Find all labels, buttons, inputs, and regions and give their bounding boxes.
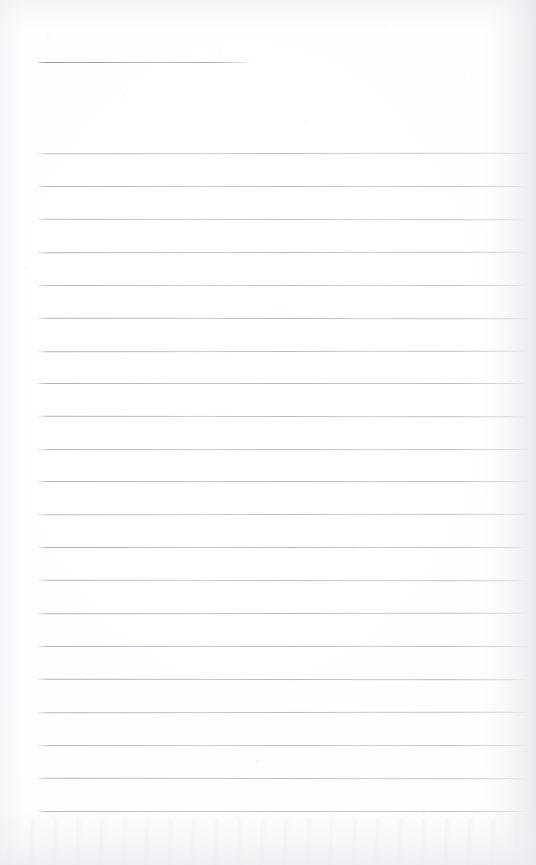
ruled-line — [37, 580, 528, 581]
ruled-line — [37, 285, 528, 286]
ruled-line — [37, 219, 528, 220]
ruled-line — [37, 351, 528, 352]
ruled-line — [37, 679, 528, 680]
ruled-line — [37, 153, 528, 155]
ruled-line — [37, 383, 528, 384]
ruled-line — [37, 712, 528, 713]
ruled-line — [37, 547, 528, 548]
ruled-line — [37, 514, 528, 516]
ruled-line — [37, 416, 528, 418]
ruled-line — [37, 449, 528, 450]
ruled-lines-layer — [0, 0, 536, 865]
scanned-page — [0, 0, 536, 865]
ruled-line — [37, 318, 528, 319]
title-rule — [37, 62, 252, 63]
ruled-line — [37, 613, 528, 614]
ruled-line — [37, 646, 528, 647]
ruled-line — [37, 811, 528, 812]
ruled-line — [37, 778, 528, 780]
ruled-line — [37, 186, 528, 187]
ruled-line — [37, 481, 528, 482]
ruled-line — [37, 745, 528, 746]
ruled-line — [37, 252, 528, 253]
